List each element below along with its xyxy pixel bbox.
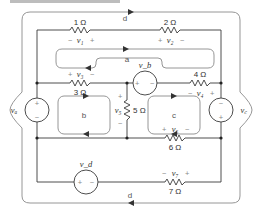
sign-v3-plus: + xyxy=(68,70,73,79)
label-r2: 2 Ω xyxy=(164,18,177,27)
sign-v7-plus: + xyxy=(185,169,190,178)
label-v2: v₂ xyxy=(167,35,174,45)
sign-v2-plus: + xyxy=(158,36,163,45)
sign-v7-minus: − xyxy=(162,169,167,178)
sign-v1-plus: + xyxy=(90,36,95,45)
label-va: vₐ xyxy=(11,105,18,115)
label-r3: 3 Ω xyxy=(74,88,87,97)
label-r7: 7 Ω xyxy=(169,187,182,196)
sign-v2-minus: − xyxy=(180,36,185,45)
sign-v4-minus: − xyxy=(188,89,193,98)
resistor-4-ohm xyxy=(190,80,210,86)
resistor-3-ohm xyxy=(70,80,90,86)
sign-va-plus: + xyxy=(35,99,40,108)
sign-v4-plus: + xyxy=(210,89,215,98)
sign-vc-plus: + xyxy=(219,113,224,122)
sign-v6-plus: + xyxy=(162,125,167,134)
label-r6: 6 Ω xyxy=(169,143,182,152)
label-v3: v₃ xyxy=(77,69,84,79)
sign-vd-plus: + xyxy=(78,178,83,187)
resistor-7-ohm xyxy=(165,179,185,185)
label-v4: v₄ xyxy=(197,88,204,98)
label-vb: v_b xyxy=(139,60,151,70)
label-v5: v₅ xyxy=(115,105,122,115)
label-loop-c: c xyxy=(172,111,176,120)
sign-vb-plus: + xyxy=(135,79,140,88)
label-loop-d-top: d xyxy=(123,14,127,23)
loop-a xyxy=(56,46,214,71)
label-loop-b: b xyxy=(82,111,87,120)
circuit-diagram: 1 Ω − v₁ + d 2 Ω + v₂ − a v_b + − + v₃ −… xyxy=(0,0,259,213)
resistor-2-ohm xyxy=(160,27,180,33)
label-vd: v_d xyxy=(80,159,93,169)
sign-v1-minus: − xyxy=(68,36,73,45)
sign-v5-plus: + xyxy=(118,92,123,101)
sign-vd-minus: − xyxy=(90,178,95,187)
resistor-1-ohm xyxy=(70,27,90,33)
label-vc: v꜀ xyxy=(241,105,248,115)
resistor-5-ohm xyxy=(124,100,130,120)
label-r1: 1 Ω xyxy=(74,18,87,27)
sign-va-minus: − xyxy=(35,113,40,122)
label-loop-a: a xyxy=(125,55,130,64)
sign-v6-minus: − xyxy=(185,125,190,134)
label-loop-d-bottom: d xyxy=(128,191,132,200)
sign-vb-minus: − xyxy=(150,79,155,88)
label-v7: v₇ xyxy=(172,168,179,178)
label-r4: 4 Ω xyxy=(194,70,207,79)
label-v1: v₁ xyxy=(77,35,84,45)
sign-v5-minus: − xyxy=(118,119,123,128)
sign-vc-minus: − xyxy=(219,99,224,108)
sign-v3-minus: − xyxy=(90,70,95,79)
loop-d xyxy=(10,9,252,206)
label-v6: v₆ xyxy=(172,124,179,134)
label-r5: 5 Ω xyxy=(133,106,146,115)
